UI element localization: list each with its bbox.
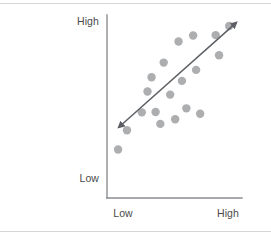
- scatter-point: [182, 104, 190, 112]
- plot-canvas: [0, 0, 271, 238]
- scatter-plot-figure: High Low Low High: [0, 0, 271, 238]
- scatter-point: [151, 108, 159, 116]
- scatter-point: [166, 90, 174, 98]
- scatter-point: [174, 37, 182, 45]
- scatter-point: [123, 126, 131, 134]
- x-axis-label-low: Low: [103, 207, 143, 219]
- scatter-point: [143, 87, 151, 95]
- y-axis-label-high: High: [77, 15, 99, 27]
- scatter-point: [147, 73, 155, 81]
- scatter-point: [171, 115, 179, 123]
- scatter-point: [192, 66, 200, 74]
- scatter-point: [160, 58, 168, 66]
- scatter-point: [114, 145, 122, 153]
- y-axis-label-low: Low: [79, 172, 99, 184]
- scatter-point: [156, 120, 164, 128]
- scatter-point: [178, 77, 186, 85]
- scatter-point: [189, 31, 197, 39]
- x-axis-label-high: High: [208, 207, 248, 219]
- scatter-point: [215, 51, 223, 59]
- scatter-point: [196, 110, 204, 118]
